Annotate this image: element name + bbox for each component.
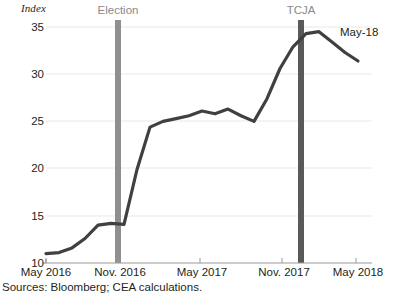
- x-tick-marks: [46, 258, 356, 263]
- gridlines: [46, 27, 372, 216]
- plot-area: [0, 0, 397, 299]
- endpoint-label-may-18: May-18: [340, 26, 378, 38]
- election-marker-band: [115, 20, 121, 263]
- tcja-marker-label: TCJA: [287, 4, 316, 16]
- x-tick-may-2017: May 2017: [177, 266, 228, 278]
- chart-figure: Index 35: [0, 0, 397, 299]
- y-tick-25: 25: [18, 115, 44, 127]
- y-tick-20: 20: [18, 162, 44, 174]
- source-note: Sources: Bloomberg; CEA calculations.: [2, 281, 202, 293]
- x-tick-may-2016: May 2016: [21, 266, 72, 278]
- y-tick-35: 35: [18, 21, 44, 33]
- x-tick-nov-2017: Nov. 2017: [258, 266, 310, 278]
- x-tick-may-2018: May 2018: [333, 266, 384, 278]
- y-tick-30: 30: [18, 68, 44, 80]
- series-line-index: [46, 32, 358, 254]
- tcja-marker-band: [298, 20, 304, 263]
- x-tick-nov-2016: Nov. 2016: [94, 266, 146, 278]
- election-marker-label: Election: [98, 4, 139, 16]
- y-tick-15: 15: [18, 210, 44, 222]
